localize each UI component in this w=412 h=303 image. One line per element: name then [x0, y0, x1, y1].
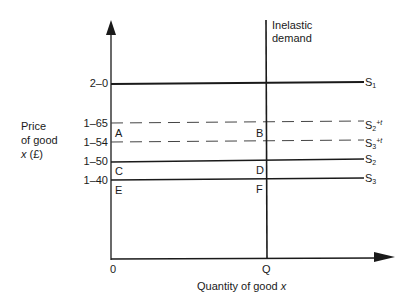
- series-label-s3: S3: [365, 172, 376, 188]
- y-axis-arrow-icon: [106, 20, 116, 35]
- supply-line-s2: [111, 159, 364, 162]
- supply-line-s3: [111, 178, 364, 180]
- x-axis-arrow-icon: [374, 252, 395, 262]
- series-label-s1: S1: [365, 76, 376, 92]
- y-axis-label-line3: x (£): [21, 148, 43, 161]
- y-tick-1-54: 1–54: [68, 136, 108, 149]
- point-label-b: B: [256, 127, 263, 140]
- y-axis-label-line1: Price: [21, 120, 46, 133]
- origin-label: 0: [110, 263, 116, 276]
- y-tick-1-65: 1–65: [68, 117, 108, 130]
- annotation-inelastic-line2: demand: [272, 32, 312, 45]
- point-label-c: C: [115, 165, 123, 178]
- point-label-e: E: [115, 184, 122, 197]
- point-label-f: F: [256, 183, 263, 196]
- series-label-s2-plus-t: S2+t: [365, 116, 382, 135]
- chart-canvas: [0, 0, 412, 303]
- point-label-a: A: [115, 127, 122, 140]
- y-tick-1-40: 1–40: [68, 174, 108, 187]
- point-label-d: D: [256, 164, 264, 177]
- series-label-s3-plus-t: S3+t: [365, 134, 382, 153]
- x-axis: [111, 258, 378, 259]
- y-tick-2-0: 2–0: [68, 77, 108, 90]
- x-axis-label: Quantity of good x: [197, 280, 286, 293]
- supply-line-s2-plus-tax: [111, 121, 364, 123]
- demand-line-inelastic: [266, 20, 267, 259]
- annotation-inelastic-line1: Inelastic: [272, 19, 312, 32]
- y-axis-label-line2: of good: [21, 134, 58, 147]
- x-tick-q: Q: [262, 263, 271, 276]
- supply-line-s1: [111, 82, 364, 84]
- series-label-s2: S2: [365, 153, 376, 169]
- y-tick-1-50: 1–50: [68, 155, 108, 168]
- supply-line-s3-plus-tax: [111, 140, 364, 142]
